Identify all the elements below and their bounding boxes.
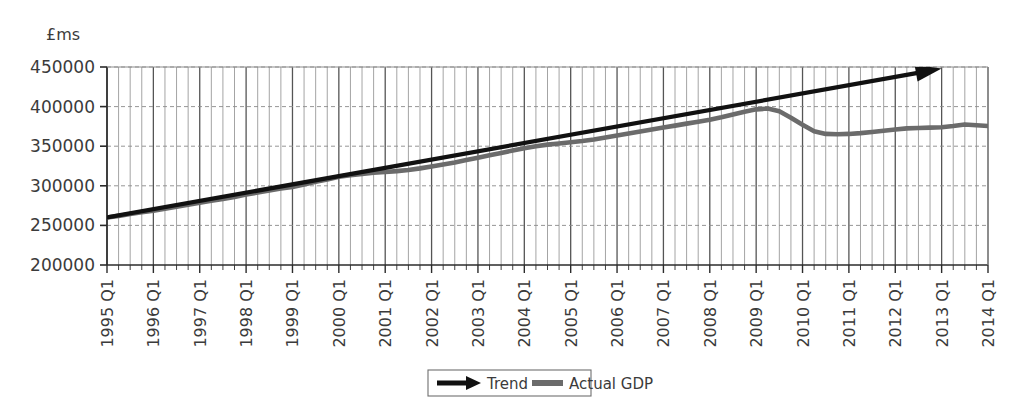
- x-tick-label: 2005 Q1: [562, 279, 581, 348]
- legend-label-trend: Trend: [486, 375, 528, 393]
- x-tick-label: 2014 Q1: [979, 279, 998, 348]
- x-tick-label: 2003 Q1: [469, 279, 488, 348]
- chart-canvas: £ms 200000250000300000350000400000450000…: [0, 0, 1014, 418]
- y-tick-label: 200000: [30, 255, 95, 275]
- x-tick-label: 2012 Q1: [886, 279, 905, 348]
- x-tick-label: 2001 Q1: [376, 279, 395, 348]
- x-tick-label: 2011 Q1: [840, 279, 859, 348]
- y-tick-label: 300000: [30, 176, 95, 196]
- y-tick-label: 400000: [30, 97, 95, 117]
- x-tick-label: 2000 Q1: [330, 279, 349, 348]
- x-tick-label: 1996 Q1: [144, 279, 163, 348]
- x-tick-label: 2007 Q1: [654, 279, 673, 348]
- y-axis-unit-label: £ms: [46, 25, 80, 44]
- x-tick-label: 2002 Q1: [423, 279, 442, 348]
- y-tick-label: 450000: [30, 57, 95, 77]
- gdp-trend-chart: £ms 200000250000300000350000400000450000…: [0, 0, 1014, 418]
- x-tick-label: 1997 Q1: [191, 279, 210, 348]
- x-tick-label: 2009 Q1: [747, 279, 766, 348]
- y-tick-label: 250000: [30, 215, 95, 235]
- x-tick-label: 2013 Q1: [933, 279, 952, 348]
- y-tick-label: 350000: [30, 136, 95, 156]
- x-tick-label: 1998 Q1: [237, 279, 256, 348]
- x-tick-label: 2008 Q1: [701, 279, 720, 348]
- x-tick-label: 2004 Q1: [515, 279, 534, 348]
- x-tick-label: 1999 Q1: [283, 279, 302, 348]
- x-tick-label: 2006 Q1: [608, 279, 627, 348]
- x-tick-label: 1995 Q1: [98, 279, 117, 348]
- legend-label-actual-gdp: Actual GDP: [569, 375, 653, 393]
- x-tick-label: 2010 Q1: [794, 279, 813, 348]
